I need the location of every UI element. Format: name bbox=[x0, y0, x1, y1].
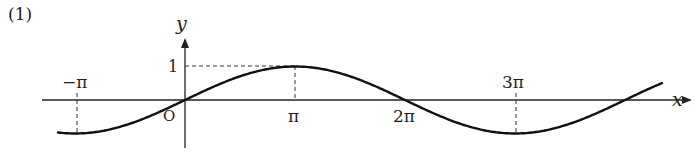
tick-label-3pi: 3π bbox=[502, 72, 524, 92]
y-axis-label: y bbox=[175, 12, 187, 34]
tick-label-neg-pi: −π bbox=[62, 72, 87, 92]
sine-graph: (1) y x O −π π 2π 3π 1 bbox=[0, 0, 695, 152]
tick-label-pi: π bbox=[288, 106, 299, 126]
x-axis-label: x bbox=[672, 88, 683, 110]
problem-label: (1) bbox=[8, 4, 32, 24]
tick-label-2pi: 2π bbox=[393, 106, 415, 126]
tick-label-y1: 1 bbox=[168, 57, 178, 76]
